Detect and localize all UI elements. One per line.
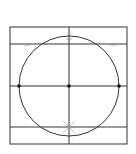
right-point [117,84,121,88]
center-point [67,84,71,88]
left-point [17,84,21,88]
construction-diagram [0,0,136,154]
